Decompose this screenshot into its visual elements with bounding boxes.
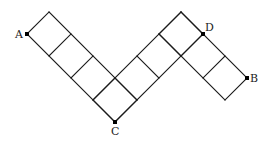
label-D: D	[205, 21, 214, 34]
strip-c-d-cell-divider	[93, 100, 115, 122]
strip-a-c-cell-divider	[49, 34, 71, 56]
point-A-marker	[25, 32, 29, 36]
point-C-marker	[113, 120, 117, 124]
strip-a-c-cell-divider	[27, 12, 49, 34]
points-layer: A B C D	[14, 21, 258, 138]
strip-a-c-cell-divider	[71, 56, 93, 78]
strip-peak-b-edge	[159, 34, 225, 100]
label-C: C	[111, 125, 119, 138]
grid-lines	[27, 12, 247, 122]
strip-c-d-cell-divider	[137, 56, 159, 78]
strip-peak-b-cell-divider	[203, 56, 225, 78]
label-B: B	[250, 72, 258, 85]
strip-c-d-cell-divider	[115, 78, 137, 100]
strip-peak-b-edge	[181, 12, 247, 78]
label-A: A	[14, 28, 24, 41]
strip-peak-b-cell-divider	[159, 12, 181, 34]
strip-peak-b-cell-divider	[181, 34, 203, 56]
diagram-canvas: A B C D	[0, 0, 270, 147]
point-B-marker	[245, 76, 249, 80]
strip-peak-b-cell-divider	[225, 78, 247, 100]
